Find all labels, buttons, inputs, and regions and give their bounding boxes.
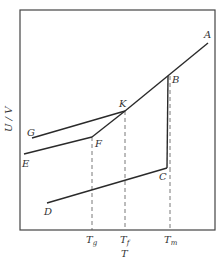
segment-c-d (47, 168, 167, 203)
point-label-f: F (94, 138, 103, 149)
point-label-a: A (203, 29, 211, 40)
point-label-k: K (118, 98, 127, 109)
segment-f-e (24, 137, 92, 154)
segment-k-g (32, 111, 125, 138)
point-label-d: D (43, 206, 52, 217)
point-label-g: G (27, 127, 35, 138)
plot-frame (20, 10, 215, 230)
y-axis-label: U / V (3, 105, 14, 132)
specific-volume-temperature-diagram: A B C D E F G K Tg Tf Tm T U / V (0, 0, 223, 263)
segment-a-k (125, 43, 208, 111)
tick-label-tg: Tg (86, 234, 98, 247)
segment-b-c (167, 76, 168, 168)
point-label-b: B (171, 74, 179, 85)
point-label-c: C (159, 171, 167, 182)
point-label-e: E (21, 158, 30, 169)
tick-label-tf: Tf (120, 234, 131, 247)
x-axis-label: T (121, 248, 129, 259)
tick-label-tm: Tm (164, 234, 178, 247)
segment-k-f (92, 111, 125, 137)
